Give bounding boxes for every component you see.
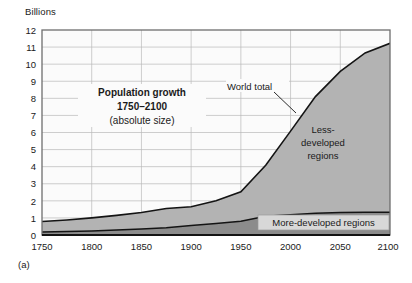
y-tick-6: 6 [31,127,36,138]
x-tick-labels: 1750 1800 1850 1900 1950 2000 2050 2100 [31,241,398,252]
title-line-1: Population growth [98,87,186,98]
less-developed-line-3: regions [307,150,338,161]
y-tick-3: 3 [31,178,36,189]
world-total-label: World total [227,81,272,92]
y-tick-2: 2 [31,196,36,207]
x-tick-1750: 1750 [31,241,52,252]
x-tick-2050: 2050 [330,241,351,252]
x-tick-1800: 1800 [81,241,102,252]
y-tick-labels: 12 11 10 9 8 7 6 5 4 3 2 1 0 [25,25,36,241]
less-developed-line-1: Less- [311,124,334,135]
chart-title-annotation: Population growth 1750–2100 (absolute si… [78,84,206,127]
chart-svg: 12 11 10 9 8 7 6 5 4 3 2 1 0 1750 1800 1… [0,0,412,283]
y-tick-1: 1 [31,213,36,224]
more-developed-label-text: More-developed regions [272,217,375,228]
y-tick-8: 8 [31,93,36,104]
y-tick-10: 10 [25,59,36,70]
y-tick-4: 4 [31,161,36,172]
population-growth-chart: Billions (a) [0,0,412,283]
x-tick-2000: 2000 [280,241,301,252]
y-tick-7: 7 [31,110,36,121]
title-line-2: 1750–2100 [117,101,167,112]
y-tick-5: 5 [31,144,36,155]
y-tick-9: 9 [31,76,36,87]
x-tick-1950: 1950 [230,241,251,252]
x-tick-2100: 2100 [377,241,398,252]
less-developed-line-2: developed [301,137,345,148]
x-tick-1850: 1850 [131,241,152,252]
title-line-3: (absolute size) [109,115,174,126]
more-developed-regions-label: More-developed regions [258,215,389,230]
y-tick-0: 0 [31,230,36,241]
y-tick-12: 12 [25,25,36,36]
y-tick-11: 11 [26,42,36,53]
x-tick-1900: 1900 [181,241,202,252]
